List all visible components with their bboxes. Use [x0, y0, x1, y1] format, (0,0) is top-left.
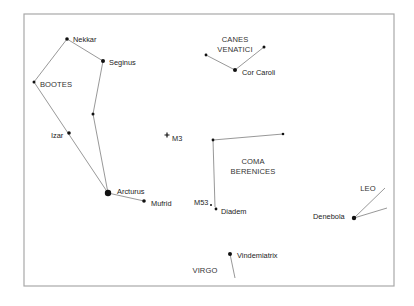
star-cor-caroli: Cor Caroli — [233, 68, 276, 77]
star-label: Diadem — [221, 207, 246, 216]
star-vindemiatrix: Vindemiatrix — [228, 251, 278, 260]
star-label: Izar — [51, 131, 64, 140]
star-mufrid: Mufrid — [142, 199, 171, 208]
star-nekkar: Nekkar — [65, 35, 97, 44]
star-canes-left — [205, 54, 208, 57]
star-dot-icon — [105, 190, 111, 196]
star-dot-icon — [352, 216, 356, 220]
star-dot-icon — [233, 68, 237, 72]
constellation-labels: BOOTESCANESVENATICICOMABERENICESLEOVIRGO — [40, 35, 376, 275]
star-dot-icon — [210, 204, 212, 206]
star-arcturus: Arcturus — [105, 187, 145, 197]
star-coma-left — [212, 139, 215, 142]
star-dot-icon — [263, 46, 266, 49]
star-dot-icon — [67, 131, 71, 135]
star-label: M3 — [172, 134, 182, 143]
star-coma-right — [282, 133, 285, 136]
star-dot-icon — [228, 252, 232, 256]
star-label: Cor Caroli — [242, 68, 276, 77]
star-bootes-left — [33, 81, 36, 84]
star-label: Seginus — [109, 58, 136, 67]
star-denebola: Denebola — [313, 212, 356, 221]
star-dot-icon — [205, 54, 208, 57]
star-dot-icon — [215, 208, 218, 211]
constellation-line — [213, 134, 283, 140]
star-dot-icon — [33, 81, 36, 84]
star-canes-right — [263, 46, 266, 49]
star-m3: M3 — [165, 133, 183, 143]
star-izar: Izar — [51, 131, 71, 140]
star-label: Nekkar — [73, 35, 97, 44]
constellation-line — [230, 254, 235, 278]
constellation-line — [213, 140, 215, 207]
star-bootes-mid — [92, 113, 95, 116]
constellation-line — [93, 61, 103, 114]
star-diadem: Diadem — [215, 207, 247, 216]
star-label: Arcturus — [117, 187, 145, 196]
star-dot-icon — [65, 37, 69, 41]
constellation-label: VIRGO — [193, 266, 218, 275]
constellation-label: BOOTES — [40, 80, 72, 89]
constellation-lines — [34, 39, 387, 278]
constellation-line — [34, 39, 67, 82]
star-m53: M53 — [194, 198, 212, 207]
star-seginus: Seginus — [101, 58, 136, 67]
star-dot-icon — [282, 133, 285, 136]
constellation-line — [34, 82, 108, 193]
stars: NekkarSeginusIzarArcturusMufridM3Cor Car… — [33, 35, 357, 260]
star-chart: NekkarSeginusIzarArcturusMufridM3Cor Car… — [0, 0, 414, 306]
star-label: Vindemiatrix — [237, 251, 278, 260]
star-dot-icon — [92, 113, 95, 116]
star-label: M53 — [194, 198, 208, 207]
cluster-cross-icon — [165, 133, 170, 138]
star-dot-icon — [212, 139, 215, 142]
constellation-label: COMABERENICES — [231, 157, 276, 176]
star-label: Mufrid — [151, 199, 172, 208]
constellation-label: CANESVENATICI — [217, 35, 252, 54]
star-dot-icon — [142, 199, 146, 203]
star-label: Denebola — [313, 212, 346, 221]
constellation-label: LEO — [360, 184, 376, 193]
constellation-line — [206, 55, 235, 70]
star-dot-icon — [101, 59, 105, 63]
